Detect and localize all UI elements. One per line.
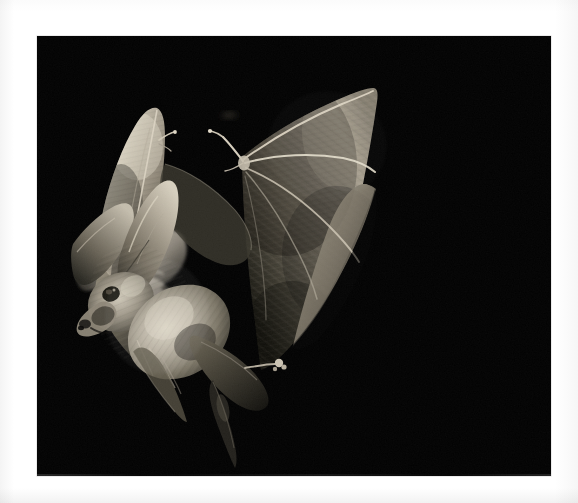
film-grain	[37, 36, 551, 476]
photo-page	[0, 0, 578, 503]
photograph	[37, 36, 551, 476]
photo-canvas	[37, 36, 551, 476]
